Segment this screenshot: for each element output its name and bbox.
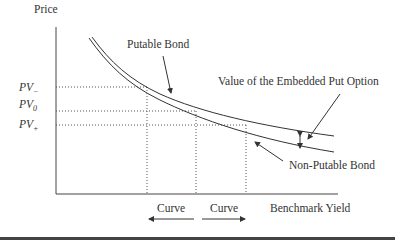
- pv-minus-label: PV−: [18, 81, 38, 96]
- option-leader: [308, 94, 340, 139]
- y-axis-label: Price: [34, 3, 58, 15]
- curve-up-label: Curve: [210, 202, 238, 214]
- pv-plus-label: PV+: [18, 118, 38, 133]
- putable-bond-label: Putable Bond: [127, 38, 190, 50]
- x-axis-label: Benchmark Yield: [270, 202, 351, 214]
- curve-down-label: Curve: [157, 202, 185, 214]
- option-value-label: Value of the Embedded Put Option: [218, 75, 379, 88]
- non-putable-bond-curve: [89, 38, 334, 152]
- pv-zero-label: PV0: [18, 98, 37, 113]
- non-putable-bond-label: Non-Putable Bond: [289, 159, 375, 171]
- putable-bond-diagram: Price Benchmark Yield Putable Bond Non-P…: [0, 0, 395, 240]
- putable-bond-leader: [163, 56, 171, 93]
- non-putable-leader: [255, 142, 283, 161]
